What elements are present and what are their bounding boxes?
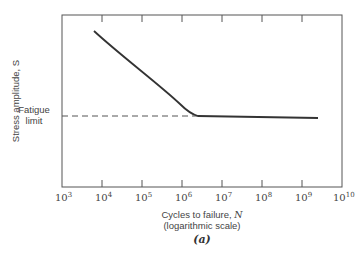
x-tick-labels: 103 104 105 106 107 108 109 1010 [55,191,355,203]
fatigue-limit-label-line2: limit [26,115,43,126]
x-tick-label: 105 [135,191,152,203]
y-axis-label: Stress amplitude, S [10,60,21,142]
sn-curve [94,31,318,118]
x-axis-scale-note: (logarithmic scale) [163,220,240,231]
x-tick-label: 108 [255,191,272,203]
x-axis-label: Cycles to failure, N [161,209,243,220]
x-tick-label: 103 [55,191,72,203]
x-tick-label: 107 [215,191,232,203]
x-axis-ticks-top [102,15,302,22]
sn-chart: 103 104 105 106 107 108 109 1010 Fatigue… [0,0,364,257]
x-axis-ticks-bottom [102,180,302,187]
x-tick-label: 1010 [333,191,355,203]
x-tick-label: 106 [175,191,193,203]
x-tick-label: 109 [295,191,312,203]
fatigue-limit-label-line1: Fatigue [18,104,50,115]
x-tick-label: 104 [95,191,113,203]
panel-label: (a) [193,233,211,246]
